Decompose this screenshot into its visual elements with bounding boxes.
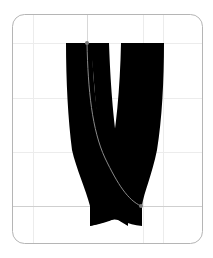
- glyph-preview-canvas[interactable]: [0, 0, 213, 258]
- anchor-point-top[interactable]: [85, 41, 89, 45]
- anchor-point-bottom[interactable]: [139, 204, 143, 208]
- glyph-shape[interactable]: [66, 43, 164, 226]
